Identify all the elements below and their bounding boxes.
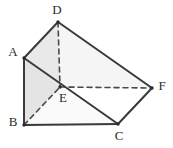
vertex-label-C: C	[115, 128, 124, 143]
vertex-dot-C	[116, 122, 119, 125]
edge-B-C	[24, 124, 118, 125]
vertex-dot-A	[22, 56, 25, 59]
edge-F-C	[118, 88, 152, 124]
vertex-label-D: D	[52, 2, 61, 17]
vertex-label-B: B	[9, 114, 18, 129]
vertex-label-F: F	[158, 78, 165, 93]
vertex-dot-E	[58, 85, 61, 88]
geometry-figure-canvas: A B C D E F	[0, 0, 173, 148]
triangular-prism-svg: A B C D E F	[0, 0, 173, 148]
vertex-dot-F	[150, 86, 153, 89]
vertex-label-E: E	[59, 90, 67, 105]
vertex-dot-B	[22, 123, 25, 126]
vertex-dot-D	[56, 20, 59, 23]
vertex-label-A: A	[8, 44, 18, 59]
